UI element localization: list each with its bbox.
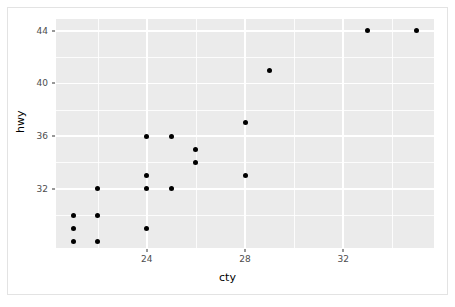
data-point	[144, 186, 149, 191]
data-point	[169, 186, 174, 191]
y-axis-tick-mark	[52, 136, 55, 137]
data-point	[365, 28, 370, 33]
data-point	[71, 213, 76, 218]
x-axis-tick-label: 32	[337, 254, 348, 264]
gridline-minor-vertical	[294, 19, 295, 248]
data-point	[71, 226, 76, 231]
data-point	[144, 226, 149, 231]
x-axis-tick-mark	[245, 249, 246, 252]
y-axis-tick-label: 32	[37, 184, 48, 194]
y-axis-tick-mark	[52, 83, 55, 84]
y-axis-title: hwy	[14, 111, 27, 133]
data-point	[193, 147, 198, 152]
data-point	[95, 186, 100, 191]
data-point	[267, 68, 272, 73]
y-axis-tick-mark	[52, 188, 55, 189]
data-point	[144, 134, 149, 139]
data-point	[144, 173, 149, 178]
data-point	[169, 134, 174, 139]
gridline-major-horizontal	[56, 188, 434, 190]
gridline-minor-vertical	[196, 19, 197, 248]
plot-panel	[56, 19, 434, 248]
x-axis-tick-label: 28	[239, 254, 250, 264]
gridline-major-horizontal	[56, 30, 434, 32]
scatter-plot-figure: 32364044242832 cty hwy	[0, 0, 455, 307]
data-point	[95, 239, 100, 244]
gridline-minor-vertical	[392, 19, 393, 248]
data-point	[193, 160, 198, 165]
gridline-major-horizontal	[56, 135, 434, 137]
gridline-major-vertical	[244, 19, 246, 248]
y-axis-tick-label: 36	[37, 131, 48, 141]
x-axis-tick-mark	[146, 249, 147, 252]
x-axis-tick-mark	[343, 249, 344, 252]
y-axis-tick-label: 44	[37, 26, 48, 36]
y-axis-tick-mark	[52, 30, 55, 31]
data-point	[243, 173, 248, 178]
data-point	[71, 239, 76, 244]
data-point	[414, 28, 419, 33]
x-axis-title: cty	[0, 271, 455, 284]
gridline-major-vertical	[342, 19, 344, 248]
gridline-major-horizontal	[56, 83, 434, 85]
data-point	[95, 213, 100, 218]
y-axis-tick-label: 40	[37, 78, 48, 88]
x-axis-tick-label: 24	[141, 254, 152, 264]
